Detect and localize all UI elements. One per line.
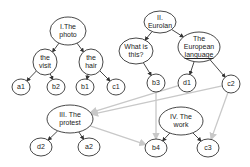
tree-edge-II-to-european_language (172, 30, 184, 37)
node-label-line: I.The (59, 23, 77, 31)
node-label-line: What is (124, 43, 147, 51)
node-label-c3: c3 (204, 144, 211, 152)
node-label-line: Eurolan (148, 22, 172, 30)
node-label-line: II. (148, 14, 172, 22)
node-label-III: III. Theprotest (59, 111, 81, 127)
tree-edge-II-to-what_is_this (145, 32, 152, 40)
tree-edge-IV-to-c3 (193, 133, 201, 141)
node-label-line: b4 (152, 144, 160, 152)
nodes-layer (12, 11, 240, 157)
node-label-line: European (184, 43, 214, 51)
node-label-line: IV. The (170, 113, 192, 121)
node-label-line: The (184, 35, 214, 43)
node-label-line: visit (39, 62, 51, 70)
tree-edge-european_language-to-d1 (190, 62, 194, 75)
node-label-line: c2 (227, 80, 234, 88)
node-label-what_is_this: What isthis? (124, 43, 147, 59)
node-label-line: hair (85, 62, 97, 70)
node-label-b2: b2 (52, 83, 60, 91)
gray-arrow-c2-to-c3 (211, 92, 228, 139)
node-label-I: I.Thephoto (59, 23, 77, 39)
tree-edge-european_language-to-c2 (210, 60, 225, 77)
tree-edge-III-to-a2 (79, 132, 84, 139)
tree-edge-what_is_this-to-b3 (143, 63, 151, 76)
node-label-line: work (170, 121, 192, 129)
tree-edge-I-to-the_hair (77, 43, 83, 52)
node-label-line: d2 (37, 143, 45, 151)
node-label-d2: d2 (37, 143, 45, 151)
node-label-line: c3 (204, 144, 211, 152)
node-label-line: b2 (52, 83, 60, 91)
tree-edge-III-to-d2 (48, 131, 58, 140)
node-label-c2: c2 (227, 80, 234, 88)
node-label-the_hair: thehair (85, 54, 97, 70)
node-label-line: language (184, 51, 214, 59)
node-label-b4: b4 (152, 144, 160, 152)
node-label-a2: a2 (85, 143, 93, 151)
node-label-line: photo (59, 31, 77, 39)
node-label-line: the (85, 54, 97, 62)
node-label-d1: d1 (183, 79, 191, 87)
gray-arrow-d1-to-III (91, 86, 179, 113)
node-label-line: d1 (183, 79, 191, 87)
node-label-c1: c1 (112, 83, 119, 91)
node-label-european_language: TheEuropeanlanguage (184, 35, 214, 59)
node-label-line: a2 (85, 143, 93, 151)
tree-edge-the_hair-to-b1 (87, 75, 88, 80)
node-label-b1: b1 (81, 83, 89, 91)
node-label-b3: b3 (152, 79, 160, 87)
node-label-line: the (39, 54, 51, 62)
diagram-canvas (0, 0, 250, 167)
node-label-line: c1 (112, 83, 119, 91)
node-label-line: a1 (17, 83, 25, 91)
tree-edge-I-to-the_visit (53, 43, 59, 52)
node-label-the_visit: thevisit (39, 54, 51, 70)
node-label-line: b3 (152, 79, 160, 87)
node-label-line: b1 (81, 83, 89, 91)
node-label-line: protest (59, 119, 81, 127)
node-label-a1: a1 (17, 83, 25, 91)
node-label-line: this? (124, 51, 147, 59)
node-label-IV: IV. Thework (170, 113, 192, 129)
node-label-line: III. The (59, 111, 81, 119)
node-label-II: II.Eurolan (148, 14, 172, 30)
tree-edge-IV-to-b4 (163, 133, 170, 141)
tree-edge-the_visit-to-b2 (50, 74, 53, 80)
tree-edge-the_visit-to-a1 (27, 71, 37, 81)
tree-edge-the_hair-to-c1 (100, 71, 110, 81)
